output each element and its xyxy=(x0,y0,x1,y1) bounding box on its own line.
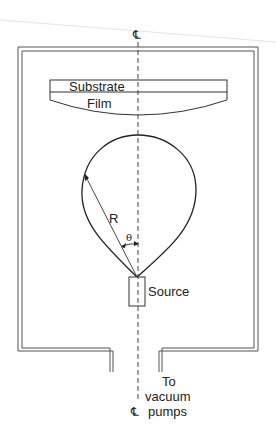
substrate-label: Substrate xyxy=(69,79,125,94)
radius-line xyxy=(86,177,137,277)
source-label: Source xyxy=(148,284,189,299)
radius-arrowhead-icon xyxy=(84,173,89,181)
film xyxy=(50,92,227,115)
source-box xyxy=(129,277,145,306)
outlet-label-line1: To xyxy=(162,374,176,389)
centerline-bottom-symbol: ℄ xyxy=(130,405,139,419)
outlet-label-line2: vacuum xyxy=(145,389,191,404)
centerline-top-symbol: ℄ xyxy=(132,28,141,42)
diagram-canvas: ℄ Substrate Film R θ Source To vacuum pu… xyxy=(0,0,276,435)
angle-label: θ xyxy=(126,232,132,243)
film-label: Film xyxy=(87,96,112,111)
emission-lobe xyxy=(82,135,196,277)
radius-label: R xyxy=(109,211,118,226)
outlet-label-line3: pumps xyxy=(148,404,188,419)
